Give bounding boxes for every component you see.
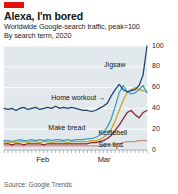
y-axis-tick-label: 60 bbox=[152, 83, 172, 90]
source-note: Source: Google Trends bbox=[4, 181, 72, 188]
chart-subtitle: Worldwide Google-search traffic, peak=10… bbox=[4, 22, 140, 31]
y-axis-tick-label: 100 bbox=[152, 42, 172, 49]
y-axis-tick-label: 80 bbox=[152, 62, 172, 69]
series-annotation-sex-tips: Sex tips bbox=[98, 141, 123, 148]
chart-figure: Alexa, I'm bored Worldwide Google-search… bbox=[0, 0, 178, 194]
page-title: Alexa, I'm bored bbox=[4, 10, 83, 22]
y-axis-tick-label: 40 bbox=[152, 104, 172, 111]
x-axis-tick-label: Mar bbox=[89, 155, 119, 164]
economist-red-tag bbox=[4, 2, 24, 8]
x-axis-tick-label: Feb bbox=[28, 155, 58, 164]
y-axis-tick-label: 0 bbox=[152, 146, 172, 153]
series-annotation-make-bread: Make bread bbox=[48, 124, 85, 131]
series-annotation-home-workout: Home workout → bbox=[51, 94, 105, 101]
y-axis-tick-label: 20 bbox=[152, 125, 172, 132]
series-annotation-kettlebell: Kettlebell bbox=[98, 129, 127, 136]
series-annotation-jigsaw: Jigsaw bbox=[104, 61, 125, 68]
chart-subtitle-secondary: By search term, 2020 bbox=[4, 31, 71, 40]
